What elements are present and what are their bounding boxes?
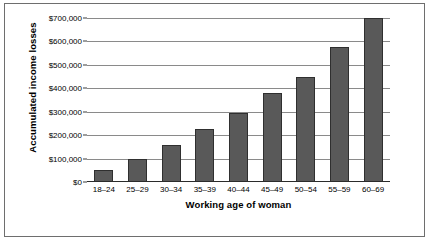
plot-area xyxy=(87,18,390,182)
x-axis-tick-labels: 18–2425–2930–3435–3940–4445–4950–5455–59… xyxy=(87,185,390,194)
y-tick-label: $600,000 xyxy=(30,37,82,46)
y-tick-label: $400,000 xyxy=(30,84,82,93)
bar xyxy=(296,77,315,182)
x-tick-label: 55–59 xyxy=(323,185,355,194)
x-tick-label: 60–69 xyxy=(357,185,389,194)
bar-series xyxy=(87,18,390,182)
bar xyxy=(330,47,349,182)
x-axis-line xyxy=(87,181,390,182)
x-tick-label: 18–24 xyxy=(88,185,120,194)
bar-chart-figure: Accumulated income losses $0$100,000$200… xyxy=(0,0,434,245)
x-tick-label: 30–34 xyxy=(155,185,187,194)
bar xyxy=(128,159,147,182)
x-tick-label: 35–39 xyxy=(189,185,221,194)
bar xyxy=(229,113,248,182)
bar xyxy=(195,129,214,182)
x-tick-label: 40–44 xyxy=(222,185,254,194)
y-tick-label: $200,000 xyxy=(30,131,82,140)
y-tick-label: $0 xyxy=(30,178,82,187)
y-tick-label: $300,000 xyxy=(30,107,82,116)
x-axis-title: Working age of woman xyxy=(87,199,390,210)
bar xyxy=(162,145,181,182)
y-tick-label: $700,000 xyxy=(30,14,82,23)
y-tick-label: $500,000 xyxy=(30,60,82,69)
bar xyxy=(263,93,282,182)
y-tick-label: $100,000 xyxy=(30,154,82,163)
x-tick-label: 25–29 xyxy=(121,185,153,194)
bar xyxy=(364,18,383,182)
y-axis-tick-labels: $0$100,000$200,000$300,000$400,000$500,0… xyxy=(30,18,82,182)
x-tick-label: 45–49 xyxy=(256,185,288,194)
x-tick-label: 50–54 xyxy=(290,185,322,194)
